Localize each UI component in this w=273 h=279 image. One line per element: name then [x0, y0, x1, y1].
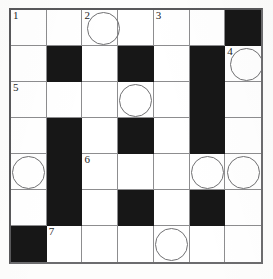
grid-block-cell: [190, 82, 226, 118]
grid-open-cell[interactable]: [82, 190, 118, 226]
grid-open-cell[interactable]: [190, 10, 226, 46]
grid-open-cell[interactable]: [225, 190, 261, 226]
grid-block-cell: [47, 46, 83, 82]
grid-open-cell[interactable]: [225, 118, 261, 154]
cell-clue-number: 1: [13, 9, 19, 21]
cell-clue-number: 2: [84, 9, 90, 21]
cell-circle-marker: [119, 84, 152, 117]
grid-open-cell[interactable]: [154, 82, 190, 118]
cell-clue-number: 7: [49, 225, 55, 237]
grid-open-cell[interactable]: 4: [225, 46, 261, 82]
cell-circle-marker: [155, 228, 188, 261]
grid-open-cell[interactable]: [11, 118, 47, 154]
grid-open-cell[interactable]: 2: [82, 10, 118, 46]
grid-block-cell: [47, 118, 83, 154]
grid-block-cell: [225, 10, 261, 46]
cell-circle-marker: [230, 48, 263, 81]
grid-block-cell: [118, 118, 154, 154]
grid-open-cell[interactable]: 3: [154, 10, 190, 46]
grid-open-cell[interactable]: [225, 82, 261, 118]
grid-open-cell[interactable]: [118, 10, 154, 46]
grid-open-cell[interactable]: [154, 226, 190, 262]
grid-open-cell[interactable]: [190, 154, 226, 190]
grid-open-cell[interactable]: [82, 82, 118, 118]
grid-block-cell: [118, 46, 154, 82]
grid-block-cell: [190, 46, 226, 82]
cell-clue-number: 6: [84, 153, 90, 165]
grid-open-cell[interactable]: [82, 226, 118, 262]
cell-circle-marker: [12, 156, 45, 189]
grid-block-cell: [118, 190, 154, 226]
grid-open-cell[interactable]: 1: [11, 10, 47, 46]
grid-open-cell[interactable]: [47, 10, 83, 46]
grid-open-cell[interactable]: [118, 82, 154, 118]
grid-open-cell[interactable]: 6: [82, 154, 118, 190]
grid-open-cell[interactable]: [225, 154, 261, 190]
grid-open-cell[interactable]: [225, 226, 261, 262]
grid-open-cell[interactable]: [82, 46, 118, 82]
grid-block-cell: [47, 154, 83, 190]
cell-circle-marker: [87, 12, 120, 45]
grid-open-cell[interactable]: [190, 226, 226, 262]
grid-open-cell[interactable]: [82, 118, 118, 154]
grid-block-cell: [11, 226, 47, 262]
grid-open-cell[interactable]: [11, 190, 47, 226]
grid-open-cell[interactable]: [154, 118, 190, 154]
grid-open-cell[interactable]: 7: [47, 226, 83, 262]
grid-open-cell[interactable]: [118, 226, 154, 262]
cell-clue-number: 3: [156, 9, 162, 21]
grid-open-cell[interactable]: [154, 154, 190, 190]
grid-block-cell: [190, 190, 226, 226]
grid-open-cell[interactable]: [154, 46, 190, 82]
grid-block-cell: [47, 190, 83, 226]
grid-open-cell[interactable]: [118, 154, 154, 190]
crossword-puzzle: 1234567: [0, 0, 273, 279]
grid-open-cell[interactable]: 5: [11, 82, 47, 118]
grid-open-cell[interactable]: [11, 46, 47, 82]
grid-open-cell[interactable]: [47, 82, 83, 118]
cell-circle-marker: [191, 156, 224, 189]
cell-clue-number: 4: [227, 45, 233, 57]
crossword-grid[interactable]: 1234567: [9, 8, 263, 264]
cell-clue-number: 5: [13, 81, 19, 93]
grid-open-cell[interactable]: [154, 190, 190, 226]
cell-circle-marker: [227, 156, 260, 189]
grid-open-cell[interactable]: [11, 154, 47, 190]
grid-block-cell: [190, 118, 226, 154]
